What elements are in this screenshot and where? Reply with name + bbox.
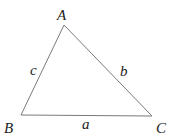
side-c-edge	[21, 25, 64, 115]
side-b-label: b	[120, 63, 128, 79]
vertex-c-label: C	[156, 120, 167, 136]
vertex-b-label: B	[4, 120, 13, 136]
side-b-edge	[64, 25, 152, 116]
side-c-label: c	[30, 62, 37, 78]
triangle-diagram: A B C a b c	[0, 0, 178, 139]
side-a-label: a	[82, 116, 90, 132]
vertex-a-label: A	[56, 7, 67, 23]
